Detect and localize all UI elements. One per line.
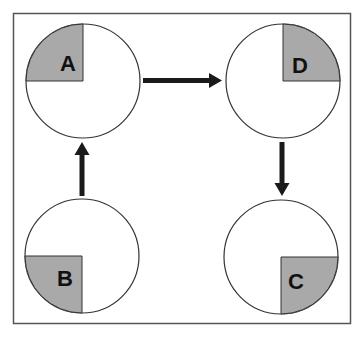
arrow-b-to-a-head xyxy=(75,142,90,155)
arrow-b-to-a-shaft xyxy=(80,153,85,196)
node-c-label: C xyxy=(288,269,304,294)
arrow-d-to-c-shaft xyxy=(280,142,285,185)
arrow-a-to-d-head xyxy=(209,73,222,88)
arrow-d-to-c-head xyxy=(275,183,290,196)
arrow-b-to-a xyxy=(75,142,90,196)
arrow-d-to-c xyxy=(275,142,290,196)
node-d-label: D xyxy=(292,53,308,78)
node-b-quadrant xyxy=(25,256,82,313)
arrow-a-to-d-shaft xyxy=(143,78,211,83)
node-a: A xyxy=(26,24,140,138)
cycle-diagram: A D B C xyxy=(0,0,363,337)
node-a-label: A xyxy=(60,51,76,76)
node-b-label: B xyxy=(57,266,73,291)
node-c: C xyxy=(224,200,338,314)
node-d: D xyxy=(226,24,340,138)
node-b: B xyxy=(25,199,139,313)
arrow-a-to-d xyxy=(143,73,222,88)
